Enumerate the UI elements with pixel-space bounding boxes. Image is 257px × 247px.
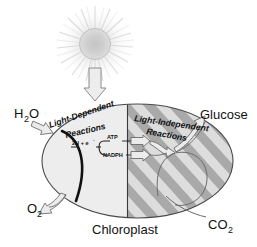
co2-label: CO [208,217,228,232]
label-oxygen: O 2 [27,201,42,219]
electrons-superscript: - [93,137,95,143]
photosynthesis-diagram: H 2 O O 2 Glucose CO 2 Chloroplast Light… [0,0,257,247]
water-label-tail: O [29,106,39,121]
nadph-label: NADPH [103,152,123,158]
oxygen-label: O [27,201,37,216]
chloroplast-label: Chloroplast [92,222,158,237]
oxygen-output-arrow-icon [39,193,66,214]
label-water: H 2 O [14,106,39,124]
oxygen-subscript: 2 [37,209,42,219]
water-label: H [14,106,23,121]
label-carbon-dioxide: CO 2 [208,217,233,235]
atp-label: ATP [107,134,118,140]
glucose-label: Glucose [200,107,248,122]
co2-subscript: 2 [228,225,233,235]
electrons-label: 2H + e [72,140,89,146]
